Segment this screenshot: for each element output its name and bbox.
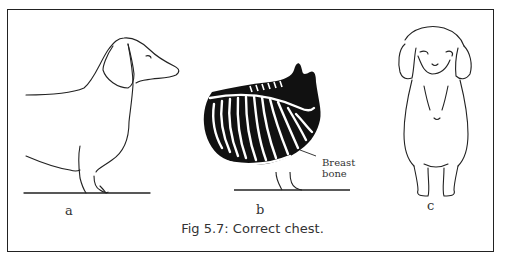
annotation-line-2: bone	[322, 168, 355, 179]
panel-c-label: c	[427, 198, 434, 213]
panel-a-dog-side-view	[24, 38, 179, 193]
breast-bone-annotation: Breast bone	[322, 157, 355, 179]
panel-b-label: b	[256, 202, 264, 217]
panel-c-dog-front-view	[399, 27, 471, 197]
figure-caption: Fig 5.7: Correct chest.	[0, 221, 505, 236]
panel-a-label: a	[65, 203, 73, 218]
annotation-line-1: Breast	[322, 157, 355, 168]
